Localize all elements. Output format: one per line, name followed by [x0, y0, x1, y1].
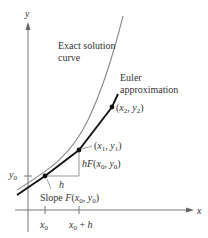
x0-plus-h-tick-label: x0 + h	[68, 219, 93, 232]
slope-leader	[47, 179, 51, 189]
point1-leader	[82, 146, 92, 149]
euler-diagram: y x x0 x0 + h y0 Exact solution curve Eu…	[0, 0, 208, 238]
euler-label-line2: approximation	[120, 84, 178, 95]
y0-tick-label: y0	[8, 169, 17, 182]
point-x2-y2	[110, 105, 115, 110]
exact-solution-label-line2: curve	[58, 52, 81, 63]
x-axis-arrow-icon	[186, 208, 194, 213]
x0-tick-label: x0	[39, 219, 48, 232]
slope-label: Slope F(x0, y0)	[40, 192, 99, 205]
rise-label: hF(x0, y0)	[82, 158, 121, 171]
x-axis-label: x	[196, 205, 202, 216]
run-label: h	[59, 179, 64, 190]
point-x1-y1	[77, 148, 82, 153]
exact-solution-label-line1: Exact solution	[58, 40, 116, 51]
point-x0-y0	[43, 174, 48, 179]
y-axis-arrow-icon	[26, 22, 31, 30]
y-axis-label: y	[24, 8, 30, 19]
euler-label-line1: Euler	[120, 72, 142, 83]
point1-label: (x1, y1)	[94, 140, 122, 153]
point2-label: (x2, y2)	[116, 102, 144, 115]
